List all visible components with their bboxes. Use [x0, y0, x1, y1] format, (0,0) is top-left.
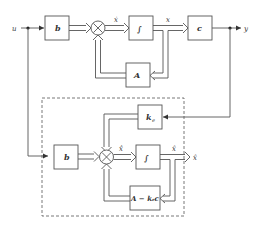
observer-fb-c: c [155, 194, 160, 203]
plant-x-label: x [166, 16, 170, 24]
plant-summing-junction [91, 21, 105, 35]
observer-b-block: b [54, 145, 78, 169]
plant-c-label: c [197, 23, 202, 33]
input-u-line [21, 26, 48, 156]
plant-A-block: A [126, 63, 150, 87]
observer-xhat-label: x̂ [172, 145, 176, 153]
plant-c-block: c [188, 16, 212, 40]
plant-sum-to-integrator-arrow [105, 23, 129, 33]
svg-text:A − kec: A − kec [130, 194, 160, 203]
observer-summing-junction [100, 150, 114, 164]
plant-integrator-to-c-arrow [153, 23, 188, 33]
observer-integrator-label: ∫ [144, 153, 149, 163]
plant-integrator-block: ∫ [129, 16, 153, 40]
plant-b-to-sum-arrow [69, 23, 91, 33]
plant-A-to-sum-feedback [93, 35, 126, 78]
observer-A-minus-kec-block: A − kec [130, 186, 160, 210]
observer-ke-block: k e [138, 105, 162, 129]
observer-integrator-block: ∫ [136, 145, 160, 169]
input-label-u: u [12, 25, 17, 33]
plant-xdot-label: ẋ [114, 16, 118, 24]
plant-b-label: b [55, 23, 61, 33]
observer-feedback-to-sum-arrow [102, 164, 131, 201]
plant-integrator-label: ∫ [137, 24, 142, 34]
observer-output-xhat-label: x̂ [193, 154, 197, 162]
output-label-y: y [243, 25, 249, 33]
observer-sum-to-integrator-arrow [114, 152, 137, 162]
observer-xhat-dot-label: x̂̇ [119, 145, 123, 153]
block-diagram: u b ẋ ∫ x A [0, 0, 258, 240]
plant-A-label: A [133, 70, 140, 80]
plant-b-block: b [45, 16, 69, 40]
observer-ke-sub: e [152, 117, 155, 123]
observer-b-label: b [64, 152, 70, 162]
observer-b-to-sum-arrow [78, 152, 99, 162]
observer-fb-minus: − [136, 194, 147, 203]
observer-xhat-to-feedback [160, 160, 175, 204]
